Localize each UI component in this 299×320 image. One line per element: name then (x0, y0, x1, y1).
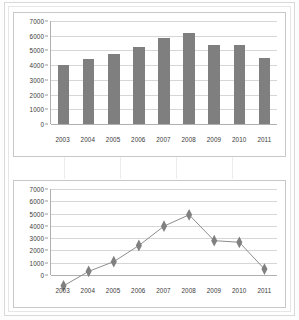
y-tick-mark (45, 94, 48, 95)
x-tick-label: 2005 (100, 287, 125, 301)
bar-chart-y-axis: 01000200030004000500060007000 (14, 21, 48, 124)
y-tick-label: 5000 (30, 210, 44, 217)
y-tick-mark (45, 109, 48, 110)
bar-slot (202, 21, 227, 124)
bar-2008[interactable] (183, 33, 195, 124)
x-tick-label: 2006 (126, 136, 151, 150)
bar-chart-plot-area (50, 21, 277, 124)
y-tick-mark (45, 238, 48, 239)
bar-2010[interactable] (234, 45, 246, 124)
bar-2009[interactable] (208, 45, 220, 124)
x-tick-label: 2007 (151, 136, 176, 150)
bar-slot (126, 21, 151, 124)
data-point-2007[interactable]: 2007: 5850 (161, 220, 167, 232)
x-tick-label: 2010 (227, 287, 252, 301)
data-point-2005[interactable]: 2005: 4750 (111, 256, 117, 268)
bar-chart-series (51, 21, 277, 124)
y-tick-mark (45, 21, 48, 22)
y-tick-label: 4000 (30, 222, 44, 229)
data-point-2008[interactable]: 2008: 6200 (186, 209, 192, 221)
y-tick-mark (45, 35, 48, 36)
y-tick-label: 3000 (30, 76, 44, 83)
y-tick-mark (45, 50, 48, 51)
y-tick-mark (45, 124, 48, 125)
y-tick-label: 6000 (30, 32, 44, 39)
data-point-2010[interactable]: 2010: 5350 (236, 236, 242, 248)
y-tick-label: 4000 (30, 62, 44, 69)
line-chart-x-axis: 200320042005200620072008200920102011 (50, 287, 277, 301)
bar-2003[interactable] (58, 65, 70, 124)
bar-slot (252, 21, 277, 124)
bar-slot (227, 21, 252, 124)
y-tick-label: 0 (40, 272, 44, 279)
bar-chart-x-axis: 200320042005200620072008200920102011 (50, 136, 277, 150)
line-chart-plot-area: 2003: 40002004: 44502005: 47502006: 5250… (50, 189, 277, 275)
data-point-2006[interactable]: 2006: 5250 (136, 240, 142, 252)
data-point-2009[interactable]: 2009: 5400 (211, 235, 217, 247)
y-tick-label: 6000 (30, 198, 44, 205)
data-point-2011[interactable]: 2011: 4520 (261, 263, 267, 275)
bar-chart[interactable]: 01000200030004000500060007000 2003200420… (13, 12, 286, 157)
x-tick-label: 2008 (176, 287, 201, 301)
screenshot-root: 01000200030004000500060007000 2003200420… (0, 0, 299, 320)
bar-slot (76, 21, 101, 124)
y-tick-label: 1000 (30, 259, 44, 266)
bar-slot (177, 21, 202, 124)
y-tick-label: 3000 (30, 235, 44, 242)
x-tick-label: 2003 (50, 287, 75, 301)
bar-2005[interactable] (108, 54, 120, 124)
bar-slot (101, 21, 126, 124)
line-chart[interactable]: 01000200030004000500060007000 2003: 4000… (13, 180, 286, 308)
x-tick-label: 2008 (176, 136, 201, 150)
y-tick-label: 7000 (30, 18, 44, 25)
bar-2004[interactable] (83, 59, 95, 124)
x-tick-label: 2006 (126, 287, 151, 301)
bar-slot (151, 21, 176, 124)
x-tick-label: 2011 (252, 136, 277, 150)
y-tick-label: 0 (40, 121, 44, 128)
bar-2011[interactable] (259, 58, 271, 125)
y-tick-mark (45, 225, 48, 226)
y-tick-mark (45, 201, 48, 202)
y-tick-label: 7000 (30, 186, 44, 193)
x-tick-label: 2011 (252, 287, 277, 301)
y-tick-mark (45, 65, 48, 66)
y-tick-mark (45, 189, 48, 190)
bar-slot (51, 21, 76, 124)
spreadsheet-gridlines (9, 155, 290, 179)
bar-2006[interactable] (133, 47, 145, 124)
x-tick-label: 2004 (75, 287, 100, 301)
y-tick-mark (45, 213, 48, 214)
y-tick-mark (45, 250, 48, 251)
line-chart-y-axis: 01000200030004000500060007000 (14, 189, 48, 275)
x-tick-label: 2010 (227, 136, 252, 150)
y-tick-mark (45, 79, 48, 80)
x-tick-label: 2009 (201, 287, 226, 301)
y-tick-label: 2000 (30, 247, 44, 254)
x-tick-label: 2003 (50, 136, 75, 150)
bar-2007[interactable] (158, 38, 170, 124)
x-tick-label: 2004 (75, 136, 100, 150)
gridline (51, 124, 277, 125)
x-tick-label: 2009 (201, 136, 226, 150)
x-tick-label: 2007 (151, 287, 176, 301)
data-point-2004[interactable]: 2004: 4450 (86, 265, 92, 277)
y-tick-label: 5000 (30, 47, 44, 54)
y-tick-mark (45, 275, 48, 276)
y-tick-label: 1000 (30, 106, 44, 113)
y-tick-label: 2000 (30, 91, 44, 98)
x-tick-label: 2005 (100, 136, 125, 150)
y-tick-mark (45, 262, 48, 263)
